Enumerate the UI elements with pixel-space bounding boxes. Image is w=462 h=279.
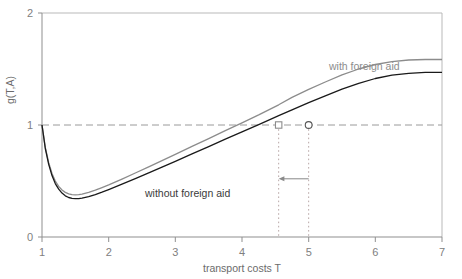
y-axis-title: g(T,A) [4,76,16,104]
y-axis-ticks [38,13,42,237]
x-tick-label-3: 3 [172,246,178,258]
series-line-with-foreign-aid [42,60,442,195]
y-tick-label-1: 1 [27,119,33,131]
shift-arrow [279,176,309,181]
x-tick-label-2: 2 [106,246,112,258]
marker-intersection-with-aid [275,122,281,128]
chart-svg: 0 1 2 1 2 3 4 5 6 7 transport costs T g(… [0,0,462,279]
x-axis-ticks [42,237,442,242]
x-tick-label-4: 4 [239,246,245,258]
y-tick-label-2: 2 [27,7,33,19]
y-tick-label-0: 0 [27,231,33,243]
chart-figure: 0 1 2 1 2 3 4 5 6 7 transport costs T g(… [0,0,462,279]
x-tick-label-5: 5 [306,246,312,258]
x-tick-label-6: 6 [372,246,378,258]
marker-intersection-without-aid [305,122,312,129]
series-label-without-foreign-aid: without foreign aid [144,187,230,199]
series-line-without-foreign-aid [42,72,442,198]
x-axis-title: transport costs T [203,262,282,274]
series-label-with-foreign-aid: with foreign aid [328,60,400,72]
x-tick-label-1: 1 [39,246,45,258]
x-tick-label-7: 7 [439,246,445,258]
